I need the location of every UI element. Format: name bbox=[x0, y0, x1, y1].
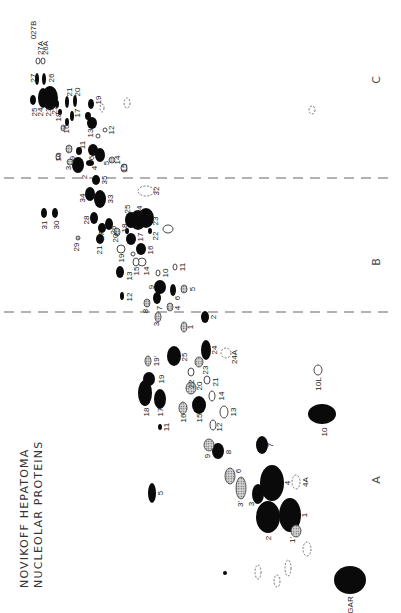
spot-label-b-35: 35 bbox=[100, 175, 109, 184]
spot-b-6 bbox=[170, 284, 176, 296]
spot-b-10 bbox=[156, 270, 160, 276]
spot-label-b-10: 10 bbox=[161, 268, 170, 277]
spot-label-b-2: 2 bbox=[209, 314, 218, 319]
spot-label-19: 19 bbox=[157, 374, 166, 383]
spot-label-c-11: 11 bbox=[78, 140, 87, 149]
region-label-A: A bbox=[370, 476, 383, 484]
spot-label-5: 5 bbox=[156, 490, 165, 495]
spot-10l bbox=[314, 365, 322, 375]
spot-c-21 bbox=[65, 96, 69, 108]
protein-spots bbox=[30, 58, 366, 594]
spot-b-5 bbox=[181, 285, 187, 293]
spot-label-13: 13 bbox=[229, 407, 238, 416]
spot-b-28 bbox=[90, 212, 98, 224]
spot-label-9: 9 bbox=[203, 453, 212, 458]
spot-15 bbox=[192, 396, 206, 414]
spot-label-16: 16 bbox=[179, 413, 188, 422]
spot-label-2: 2 bbox=[264, 535, 273, 540]
spot-label-4: 4 bbox=[283, 480, 292, 485]
spot-label-b-1: 1 bbox=[186, 324, 195, 329]
spot-label-1': 1' bbox=[288, 537, 297, 543]
spot-label-c-027b: 027B bbox=[29, 21, 38, 40]
spot-label-b-11: 11 bbox=[178, 262, 187, 271]
spot-label-b-30: 30 bbox=[52, 220, 61, 229]
spot-16 bbox=[179, 402, 187, 414]
spot-label-12: 12 bbox=[215, 422, 224, 431]
spot-label-b-20: 20 bbox=[111, 233, 120, 242]
spot-label-11: 11 bbox=[162, 422, 171, 431]
spot-label-10l: 10L bbox=[314, 377, 323, 391]
title-line-2: NUCLEOLAR PROTEINS bbox=[32, 441, 45, 588]
spot-c-6 bbox=[88, 144, 98, 156]
spot-label-b-7: 7 bbox=[155, 305, 164, 310]
spot-label-4a: 4A bbox=[301, 476, 310, 486]
spot-label-20: 20 bbox=[195, 381, 204, 390]
spot-b-11 bbox=[173, 264, 177, 270]
spot-c-9 bbox=[66, 145, 72, 153]
spot-c-25 bbox=[30, 95, 36, 105]
spot-b-12 bbox=[120, 292, 124, 300]
spot-label-c-15: 15 bbox=[120, 163, 129, 172]
spot-b-3 bbox=[155, 312, 161, 322]
spot-13 bbox=[220, 406, 228, 418]
spot-dot-a bbox=[223, 571, 227, 575]
spot-b-19 bbox=[117, 245, 125, 253]
spot-label-c-17: 17 bbox=[73, 108, 82, 117]
spot-1' bbox=[291, 525, 301, 537]
spot-label-c-25: 25 bbox=[30, 107, 39, 116]
spot-b-16x bbox=[131, 252, 135, 256]
spot-22 bbox=[188, 368, 194, 376]
spot-10 bbox=[308, 404, 336, 424]
spot-label-24: 24 bbox=[210, 345, 219, 354]
spot-23 bbox=[195, 357, 203, 367]
spot-b-15 bbox=[133, 258, 139, 266]
title-line-1: NOVIKOFF HEPATOMA bbox=[18, 449, 31, 589]
spot-label-24a: 24A bbox=[230, 349, 239, 364]
spot-label-7: 7 bbox=[266, 442, 275, 447]
spot-19' bbox=[145, 356, 151, 366]
spot-label-c-4: 4 bbox=[90, 165, 99, 170]
spot-label-b-26: 26 bbox=[109, 225, 118, 234]
spot-label-c-2: 2 bbox=[80, 174, 89, 179]
spot-b-27 bbox=[98, 223, 106, 233]
spot-label-c-6: 6 bbox=[87, 155, 96, 160]
spot-label-b-14: 14 bbox=[142, 266, 151, 275]
spot-3' bbox=[236, 477, 246, 499]
spot-label-b-3: 3 bbox=[152, 321, 161, 326]
spot-label-22: 22 bbox=[187, 379, 196, 388]
spot-dash-a3 bbox=[285, 560, 291, 576]
spot-label-14: 14 bbox=[217, 391, 226, 400]
spot-label-17: 17 bbox=[156, 407, 165, 416]
spot-b-29 bbox=[76, 236, 80, 240]
spot-b-30 bbox=[52, 208, 58, 218]
spot-b-16 bbox=[136, 243, 146, 255]
spot-dash-a2 bbox=[274, 575, 280, 587]
spot-2 bbox=[256, 501, 280, 533]
spot-dash-a4 bbox=[303, 542, 311, 556]
spot-c-c-dash bbox=[124, 98, 130, 108]
spot-label-gar: GAR bbox=[346, 596, 355, 613]
spot-c-13b bbox=[96, 134, 100, 138]
spot-label-b-21: 21 bbox=[95, 245, 104, 254]
spot-label-25: 25 bbox=[180, 352, 189, 361]
spot-label-c-23: 23 bbox=[44, 107, 53, 116]
spot-b-34 bbox=[85, 187, 95, 201]
spot-label-b-12: 12 bbox=[125, 292, 134, 301]
spot-21 bbox=[204, 376, 210, 384]
spot-label-b-19: 19 bbox=[117, 253, 126, 262]
spot-c-26 bbox=[42, 73, 46, 85]
spot-label-b-23: 23 bbox=[151, 216, 160, 225]
spot-label-6: 6 bbox=[234, 468, 243, 473]
spot-label-c-13: 13 bbox=[86, 128, 95, 137]
spot-label-b-33: 33 bbox=[106, 194, 115, 203]
region-dividers bbox=[4, 178, 390, 312]
spot-label-b-18: 18 bbox=[120, 223, 129, 232]
spot-17 bbox=[154, 389, 166, 409]
spot-label-10: 10 bbox=[320, 427, 329, 436]
spot-label-b-9: 9 bbox=[147, 284, 156, 289]
spot-label-c-12: 12 bbox=[107, 125, 116, 134]
spot-label-b-8: 8 bbox=[141, 308, 150, 313]
spot-9 bbox=[204, 439, 214, 451]
spot-label-3: 3 bbox=[247, 501, 256, 506]
gel-diagram: NOVIKOFF HEPATOMA NUCLEOLAR PROTEINS ABC… bbox=[0, 0, 401, 613]
